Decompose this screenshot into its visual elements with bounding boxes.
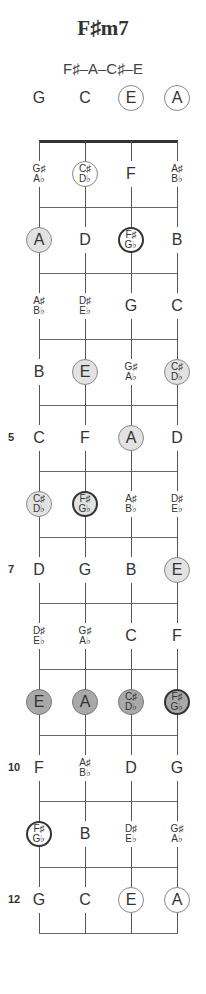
note-name: C (79, 892, 91, 908)
fret-line (39, 801, 178, 802)
note-marker: A (72, 689, 98, 715)
note-name: D (79, 232, 91, 248)
fretboard-diagram: 571012GCEAG♯A♭C♯D♭FA♯B♭ADF♯G♭BA♯B♭D♯E♭GC… (0, 0, 206, 994)
note-label: A♯B♭ (72, 755, 98, 781)
note-marker: E (164, 557, 190, 583)
note-name: A (34, 232, 45, 248)
note-flat-name: B♭ (79, 768, 91, 778)
note-flat-name: A♭ (125, 372, 137, 382)
note-name: G (125, 298, 137, 314)
note-name: E (172, 562, 183, 578)
note-label: D (118, 755, 144, 781)
note-label: A♯B♭ (26, 293, 52, 319)
note-marker: E (118, 85, 144, 111)
fret-number: 5 (8, 431, 28, 443)
note-label: C (72, 85, 98, 111)
note-marker: E (118, 887, 144, 913)
note-label: D♯E♭ (118, 821, 144, 847)
note-name: B (34, 364, 45, 380)
fret-line (39, 603, 178, 604)
string-line (39, 141, 40, 933)
note-marker: F♯G♭ (26, 821, 52, 847)
note-label: B (72, 821, 98, 847)
note-flat-name: G♭ (79, 504, 92, 514)
note-marker: A (164, 887, 190, 913)
note-label: D (72, 227, 98, 253)
note-label: F (164, 623, 190, 649)
note-name: G (171, 760, 183, 776)
note-marker: F♯G♭ (118, 227, 144, 253)
note-label: G♯A♭ (164, 821, 190, 847)
note-label: D♯E♭ (72, 293, 98, 319)
note-name: B (126, 562, 137, 578)
note-flat-name: G♭ (125, 240, 138, 250)
note-name: E (80, 364, 91, 380)
note-label: B (164, 227, 190, 253)
note-name: E (34, 694, 45, 710)
note-label: G (26, 85, 52, 111)
note-label: G (118, 293, 144, 319)
note-name: D (125, 760, 137, 776)
note-flat-name: G♭ (33, 834, 46, 844)
note-label: A♯B♭ (164, 161, 190, 187)
note-flat-name: D♭ (171, 372, 183, 382)
note-flat-name: G♭ (171, 702, 184, 712)
note-label: C (72, 887, 98, 913)
fret-number: 10 (8, 761, 28, 773)
note-name: F (172, 628, 182, 644)
note-name: G (33, 892, 45, 908)
note-label: C (118, 623, 144, 649)
string-line (85, 141, 86, 933)
note-flat-name: D♭ (79, 174, 91, 184)
note-name: B (172, 232, 183, 248)
note-marker: F♯G♭ (72, 491, 98, 517)
note-label: B (118, 557, 144, 583)
note-marker: C♯D♭ (164, 359, 190, 385)
note-flat-name: E♭ (33, 636, 45, 646)
fret-line (39, 669, 178, 670)
note-marker: A (118, 425, 144, 451)
note-name: F (126, 166, 136, 182)
note-name: B (80, 826, 91, 842)
note-label: D (164, 425, 190, 451)
note-flat-name: B♭ (171, 174, 183, 184)
fret-number: 12 (8, 893, 28, 905)
fret-line (39, 207, 178, 208)
note-label: C (26, 425, 52, 451)
note-flat-name: B♭ (33, 306, 45, 316)
note-label: F (72, 425, 98, 451)
note-marker: C♯D♭ (72, 161, 98, 187)
note-label: F (26, 755, 52, 781)
fret-line (39, 405, 178, 406)
fret-line (39, 537, 178, 538)
note-name: A (172, 892, 183, 908)
note-name: G (79, 562, 91, 578)
note-flat-name: D♭ (33, 504, 45, 514)
note-label: G♯A♭ (26, 161, 52, 187)
note-name: C (79, 90, 91, 106)
note-flat-name: E♭ (79, 306, 91, 316)
string-line (131, 141, 132, 933)
note-flat-name: A♭ (33, 174, 45, 184)
string-line (177, 141, 178, 933)
fret-number: 7 (8, 563, 28, 575)
note-name: A (80, 694, 91, 710)
note-name: F (80, 430, 90, 446)
note-name: A (172, 90, 183, 106)
note-label: D♯E♭ (164, 491, 190, 517)
note-flat-name: D♭ (125, 702, 137, 712)
note-flat-name: E♭ (125, 834, 137, 844)
fret-line (39, 867, 178, 868)
fret-line (39, 273, 178, 274)
fret-line (39, 339, 178, 340)
note-label: D♯E♭ (26, 623, 52, 649)
note-flat-name: E♭ (171, 504, 183, 514)
note-name: D (171, 430, 183, 446)
note-name: D (33, 562, 45, 578)
note-label: A♯B♭ (118, 491, 144, 517)
note-label: G (26, 887, 52, 913)
note-marker: C♯D♭ (26, 491, 52, 517)
note-label: G♯A♭ (72, 623, 98, 649)
note-flat-name: A♭ (79, 636, 91, 646)
note-name: E (126, 90, 137, 106)
